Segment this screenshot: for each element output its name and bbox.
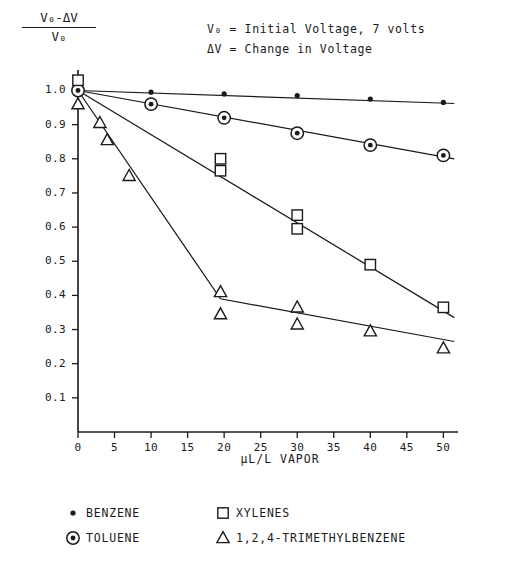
- fit-line-1,2,4-trimethylbenzene: [78, 91, 454, 342]
- legend-symbol-wrap: [60, 528, 86, 548]
- marker-square: [292, 224, 302, 234]
- legend-symbol-dot: [70, 510, 75, 515]
- y-tick-label: 0.1: [32, 391, 66, 404]
- marker-circled-dot-center: [295, 131, 300, 136]
- axis-ticks: [72, 90, 443, 438]
- marker-triangle: [214, 286, 226, 297]
- chart-figure: V₀-ΔV V₀ V₀ = Initial Voltage, 7 volts Δ…: [0, 0, 520, 565]
- marker-dot: [368, 96, 373, 101]
- y-tick-label: 0.8: [32, 152, 66, 165]
- legend-label: TOLUENE: [86, 531, 140, 545]
- marker-circled-dot-center: [76, 88, 81, 93]
- legend-symbol-square: [218, 507, 228, 517]
- y-tick-label: 0.3: [32, 323, 66, 336]
- marker-dot: [222, 91, 227, 96]
- marker-square: [292, 210, 302, 220]
- y-tick-label: 1.0: [32, 83, 66, 96]
- x-tick-label: 20: [212, 441, 236, 454]
- x-tick-label: 15: [176, 441, 200, 454]
- y-tick-label: 0.7: [32, 186, 66, 199]
- plot-area: [0, 0, 520, 565]
- marker-triangle: [72, 98, 84, 109]
- marker-square: [215, 154, 225, 164]
- marker-triangle: [94, 117, 106, 128]
- data-markers: [72, 75, 450, 353]
- legend-row: BENZENEXYLENES: [60, 500, 490, 525]
- chart-legend: BENZENEXYLENESTOLUENE1,2,4-TRIMETHYLBENZ…: [60, 500, 490, 550]
- legend-dot-icon: [63, 503, 83, 523]
- marker-triangle: [214, 308, 226, 319]
- legend-symbol-triangle: [217, 531, 229, 542]
- legend-symbol-wrap: [210, 528, 236, 548]
- marker-circled-dot-center: [149, 102, 154, 107]
- legend-label: 1,2,4-TRIMETHYLBENZENE: [236, 531, 406, 545]
- marker-square: [365, 259, 375, 269]
- x-tick-label: 50: [431, 441, 455, 454]
- x-tick-label: 30: [285, 441, 309, 454]
- legend-symbol-wrap: [210, 503, 236, 523]
- legend-square-icon: [213, 503, 233, 523]
- y-tick-label: 0.9: [32, 118, 66, 131]
- x-tick-label: 35: [322, 441, 346, 454]
- legend-label: BENZENE: [86, 506, 140, 520]
- legend-symbol-wrap: [60, 503, 86, 523]
- y-tick-label: 0.4: [32, 288, 66, 301]
- marker-dot: [148, 90, 153, 95]
- y-tick-label: 0.2: [32, 357, 66, 370]
- x-tick-label: 40: [358, 441, 382, 454]
- legend-triangle-icon: [213, 528, 233, 548]
- marker-dot: [295, 93, 300, 98]
- marker-triangle: [291, 301, 303, 312]
- fit-lines: [78, 91, 454, 342]
- marker-circled-dot-center: [222, 115, 227, 120]
- legend-item-1-2-4-trimethylbenzene: 1,2,4-TRIMETHYLBENZENE: [210, 528, 406, 548]
- fit-line-benzene: [78, 91, 454, 104]
- marker-square: [73, 75, 83, 85]
- x-tick-label: 25: [249, 441, 273, 454]
- legend-row: TOLUENE1,2,4-TRIMETHYLBENZENE: [60, 525, 490, 550]
- legend-circled-dot-icon: [63, 528, 83, 548]
- legend-item-toluene: TOLUENE: [60, 528, 210, 548]
- x-tick-label: 5: [103, 441, 127, 454]
- marker-square: [215, 166, 225, 176]
- legend-label: XYLENES: [236, 506, 290, 520]
- legend-item-benzene: BENZENE: [60, 503, 210, 523]
- x-tick-label: 45: [395, 441, 419, 454]
- marker-circled-dot-center: [368, 143, 373, 148]
- marker-square: [438, 302, 448, 312]
- x-tick-label: 10: [139, 441, 163, 454]
- marker-triangle: [291, 318, 303, 329]
- y-tick-label: 0.5: [32, 254, 66, 267]
- y-tick-label: 0.6: [32, 220, 66, 233]
- legend-item-xylenes: XYLENES: [210, 503, 290, 523]
- marker-triangle: [437, 342, 449, 353]
- x-tick-label: 0: [66, 441, 90, 454]
- marker-circled-dot-center: [441, 153, 446, 158]
- marker-dot: [441, 100, 446, 105]
- legend-symbol-circled-dot-center: [71, 535, 76, 540]
